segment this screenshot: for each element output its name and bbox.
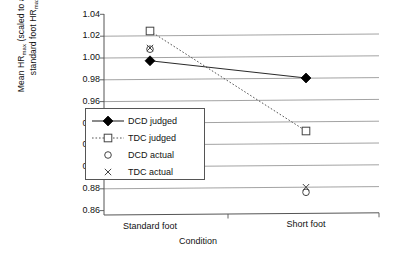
legend-label: TDC actual bbox=[126, 167, 173, 177]
legend-item-dcd-judged: DCD judged bbox=[90, 112, 200, 129]
data-point-tdc-judged-standard bbox=[146, 27, 154, 35]
data-point-dcd-actual-standard bbox=[147, 46, 154, 53]
legend-symbol-open-square-icon bbox=[90, 130, 126, 146]
legend-symbol-open-circle-icon bbox=[90, 147, 126, 163]
legend-label: DCD actual bbox=[126, 150, 174, 160]
x-axis-title: Condition bbox=[0, 236, 396, 246]
series-line-dcd-judged bbox=[150, 61, 306, 78]
legend-item-dcd-actual: DCD actual bbox=[90, 146, 200, 163]
legend-symbol-cross-icon bbox=[90, 164, 126, 180]
chart-container: Mean HRmax (scaled to actual standard fo… bbox=[0, 0, 396, 257]
legend-symbol-filled-diamond-icon bbox=[90, 113, 126, 129]
x-tick-label-standard-foot: Standard foot bbox=[110, 221, 190, 231]
x-axis-line bbox=[104, 213, 379, 215]
data-point-tdc-judged-short bbox=[302, 127, 310, 135]
legend-item-tdc-actual: TDC actual bbox=[90, 163, 200, 180]
legend-item-tdc-judged: TDC judged bbox=[90, 129, 200, 146]
x-tick-label-short-foot: Short foot bbox=[272, 219, 340, 229]
chart-legend: DCD judged TDC judged DCD actual bbox=[85, 108, 205, 180]
legend-label: TDC judged bbox=[126, 133, 176, 143]
legend-label: DCD judged bbox=[126, 116, 177, 126]
data-point-dcd-judged-short bbox=[301, 73, 311, 83]
